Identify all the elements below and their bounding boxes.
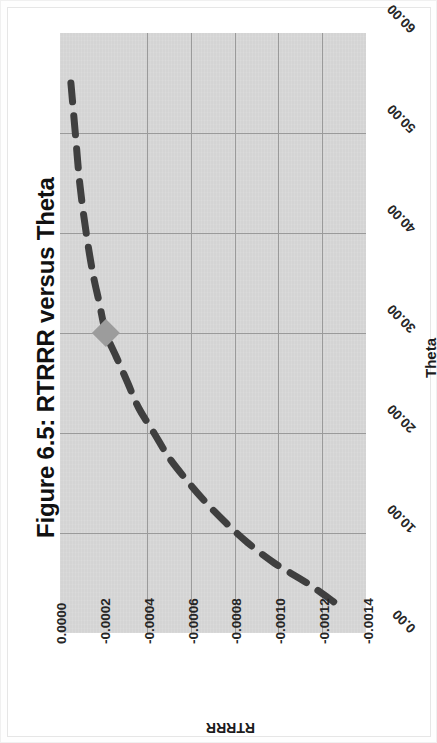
data-point-marker[interactable] [60,33,366,633]
x-tick-label: 0.00 [389,607,418,636]
figure-page: Figure 6.5: RTRRR versus Theta 0.0000 -0… [0,0,437,743]
x-tick-label: 50.00 [384,101,419,136]
y-tick-label: -0.0008 [229,598,244,644]
x-tick-label: 30.00 [384,301,419,336]
y-axis-title: RTRRR [206,720,255,736]
plot-area [60,33,366,633]
y-tick-label: -0.0010 [273,598,288,644]
y-tick-label: -0.0014 [361,598,376,644]
x-tick-label: 20.00 [384,401,419,436]
x-tick-label: 60.00 [384,1,419,36]
chart-title: Figure 6.5: RTRRR versus Theta [32,177,60,538]
y-tick-label: -0.0006 [186,598,201,644]
x-tick-label: 10.00 [384,501,419,536]
y-tick-label: -0.0004 [142,598,157,644]
y-tick-label: -0.0002 [98,598,113,644]
figure-border: Figure 6.5: RTRRR versus Theta 0.0000 -0… [7,7,431,737]
x-tick-label: 40.00 [384,201,419,236]
x-axis-title: Theta [422,338,437,378]
y-tick-label: -0.0012 [317,598,332,644]
y-tick-label: 0.0000 [54,603,69,644]
